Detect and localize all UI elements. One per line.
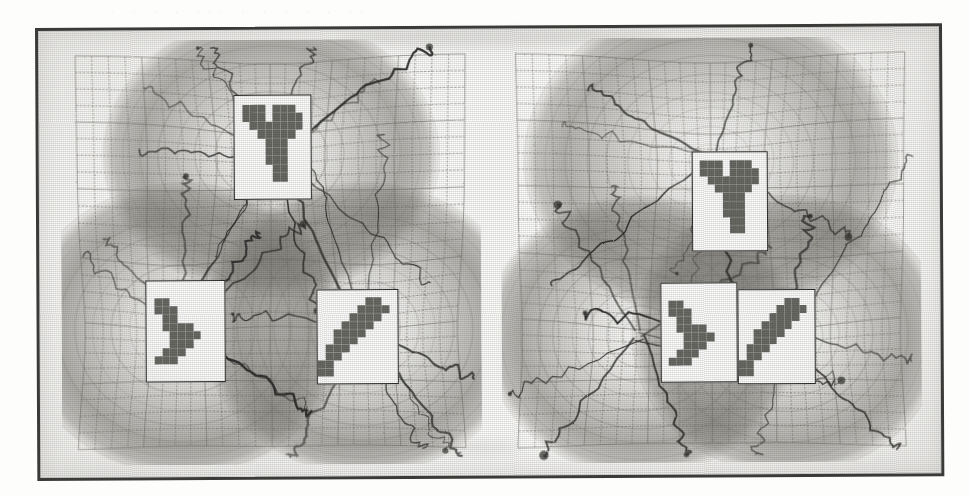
- pattern-pixel: [752, 152, 759, 160]
- pattern-pixel: [178, 331, 186, 339]
- pattern-pixel: [147, 340, 155, 348]
- pattern-pixel: [326, 345, 334, 353]
- pattern-pixel: [714, 341, 722, 349]
- pattern-pixel: [280, 147, 288, 156]
- pattern-pixel: [389, 305, 397, 313]
- pattern-pixel: [784, 313, 792, 321]
- pattern-pixel: [366, 360, 374, 368]
- pattern-pixel: [746, 345, 754, 353]
- pattern-pixel: [754, 313, 762, 321]
- pattern-pixel: [235, 113, 243, 122]
- pattern-pixel: [382, 313, 390, 321]
- pattern-pixel: [242, 105, 250, 114]
- pattern-pixel: [265, 164, 273, 173]
- pattern-pixel: [358, 368, 366, 376]
- pattern-pixel: [792, 376, 800, 384]
- pattern-pixel: [185, 315, 193, 323]
- pattern-pixel: [739, 376, 747, 384]
- pattern-pixel: [265, 156, 273, 165]
- pattern-pixel: [784, 368, 792, 376]
- pattern-pixel: [784, 321, 792, 329]
- pattern-pixel: [265, 181, 273, 190]
- pattern-pixel: [389, 290, 397, 298]
- pattern-pixel: [186, 356, 194, 364]
- pattern-pixel: [349, 290, 357, 298]
- pattern-pixel: [784, 337, 792, 345]
- pattern-pixel: [186, 365, 194, 373]
- pattern-pixel: [807, 360, 815, 368]
- pattern-pixel: [699, 317, 707, 325]
- pattern-pixel: [699, 374, 707, 382]
- pattern-pixel: [792, 313, 800, 321]
- pattern-pixel: [350, 329, 358, 337]
- figure-frame: [35, 23, 944, 481]
- trajectory-start-marker: [844, 233, 852, 241]
- pattern-pixel: [358, 376, 366, 384]
- pattern-pixel: [746, 337, 754, 345]
- pattern-pixel: [242, 130, 250, 139]
- pattern-pixel: [807, 298, 815, 306]
- pattern-pixel: [729, 373, 737, 381]
- pattern-pixel: [691, 325, 699, 333]
- pattern-pixel: [162, 340, 170, 348]
- pattern-pixel: [162, 306, 170, 314]
- pattern-pixel: [792, 360, 800, 368]
- trajectory-start-marker: [183, 173, 189, 179]
- pattern-pixel: [170, 373, 178, 381]
- pattern-pixel: [722, 160, 729, 168]
- pattern-pixel: [722, 333, 730, 341]
- pattern-pixel: [235, 96, 243, 105]
- pattern-pixel: [754, 290, 762, 298]
- trajectory-start-marker: [583, 310, 588, 315]
- pattern-pixel: [762, 368, 770, 376]
- pattern-pixel: [676, 366, 684, 374]
- pattern-pixel: [693, 185, 700, 193]
- pattern-pixel: [661, 325, 669, 333]
- pattern-pixel: [154, 315, 162, 323]
- pattern-pixel: [746, 329, 754, 337]
- pattern-pixel: [390, 376, 398, 384]
- pattern-pixel: [752, 201, 759, 209]
- pattern-pixel: [722, 349, 730, 357]
- pattern-pixel: [777, 337, 785, 345]
- pattern-pixel: [708, 242, 715, 250]
- pattern-pixel: [706, 292, 714, 300]
- pattern-pixel: [661, 341, 669, 349]
- pattern-pixel: [242, 113, 250, 122]
- pattern-pixel: [350, 313, 358, 321]
- pattern-pixel: [669, 325, 677, 333]
- pattern-pixel: [691, 284, 699, 292]
- pattern-pixel: [739, 360, 747, 368]
- pattern-pixel: [272, 105, 280, 114]
- pattern-pixel: [729, 325, 737, 333]
- pattern-pixel: [303, 147, 311, 156]
- pattern-pixel: [258, 156, 266, 165]
- pattern-pixel: [318, 376, 326, 384]
- pattern-pixel: [342, 345, 350, 353]
- pattern-pixel: [265, 147, 273, 156]
- pattern-pixel: [334, 313, 342, 321]
- pattern-pixel: [178, 356, 186, 364]
- pattern-pixel: [146, 282, 154, 290]
- pattern-pixel: [334, 352, 342, 360]
- pattern-pixel: [661, 300, 669, 308]
- pattern-pixel: [759, 217, 766, 225]
- pattern-pixel: [341, 290, 349, 298]
- pattern-pixel: [326, 314, 334, 322]
- pattern-pixel: [799, 321, 807, 329]
- pattern-pixel: [318, 360, 326, 368]
- pattern-pixel: [769, 337, 777, 345]
- pattern-pixel: [154, 306, 162, 314]
- pattern-pixel: [365, 290, 373, 298]
- pattern-pixel: [693, 217, 700, 225]
- pattern-pixel: [296, 173, 304, 182]
- pattern-pixel: [706, 317, 714, 325]
- pattern-pixel: [669, 357, 677, 365]
- pattern-pixel: [147, 348, 155, 356]
- pattern-pixel: [342, 337, 350, 345]
- pattern-pixel: [807, 329, 815, 337]
- prototype-pattern-seven: [234, 95, 312, 200]
- pattern-pixel: [744, 168, 751, 176]
- pattern-pixel: [373, 298, 381, 306]
- pattern-pixel: [295, 156, 303, 165]
